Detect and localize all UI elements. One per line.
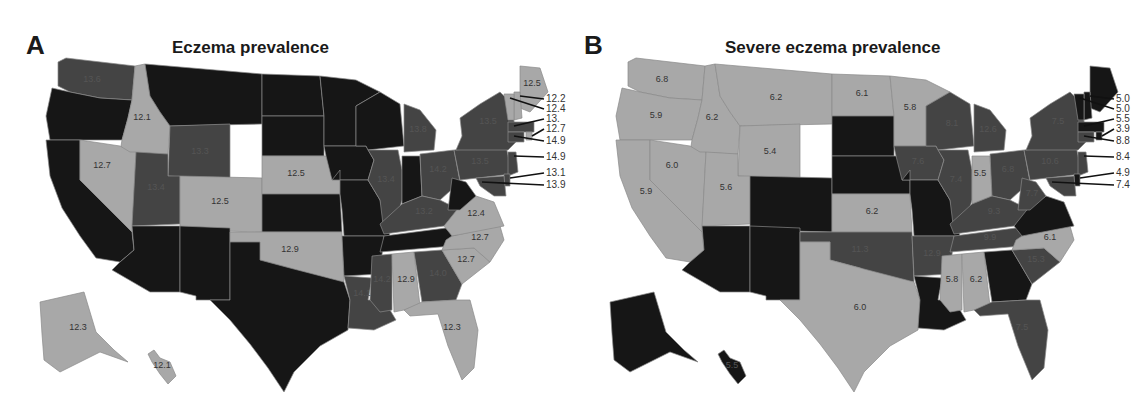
us-map-b: 6.85.95.96.26.06.25.45.66.16.211.36.05.8…	[570, 0, 1140, 403]
state-value-label-la: 14.1	[353, 288, 371, 298]
state-value-label-ks: 6.2	[866, 206, 879, 216]
state-value-label-tx: 6.0	[854, 302, 867, 312]
state-value-label-co: 12.5	[211, 196, 229, 206]
callout-value-md: 7.4	[1116, 179, 1130, 190]
state-value-label-hi: 12.1	[153, 360, 171, 370]
state-value-label-va: 12.4	[467, 208, 485, 218]
state-ak	[40, 292, 128, 372]
state-value-label-in: 5.5	[974, 168, 987, 178]
state-sd	[832, 116, 894, 156]
state-value-label-nd: 6.1	[856, 88, 869, 98]
state-value-label-fl: 12.3	[443, 322, 461, 332]
state-value-label-mn: 5.8	[904, 102, 917, 112]
state-value-label-ny: 7.5	[1052, 116, 1065, 126]
state-value-label-sc: 12.7	[457, 254, 475, 264]
state-fl	[974, 300, 1048, 380]
state-value-label-hi: 5.5	[726, 360, 739, 370]
state-value-label-ut: 13.4	[147, 182, 165, 192]
state-value-label-ok: 12.9	[281, 244, 299, 254]
state-ia	[324, 146, 374, 180]
state-value-label-oh: 6.8	[1002, 164, 1015, 174]
state-value-label-mi: 12.6	[979, 124, 997, 134]
us-map-a: 13.612.112.713.313.412.512.512.913.413.8…	[0, 0, 570, 403]
state-value-label-mt: 6.2	[770, 92, 783, 102]
state-value-label-il: 7.4	[950, 174, 963, 184]
state-value-label-or: 5.9	[650, 110, 663, 120]
state-value-label-ca: 5.9	[640, 186, 653, 196]
state-value-label-ar: 12.9	[923, 248, 941, 258]
state-value-label-mi: 13.8	[409, 124, 427, 134]
state-value-label-sc: 15.3	[1027, 254, 1045, 264]
state-sd	[262, 116, 324, 156]
state-in	[402, 156, 422, 204]
callout-value-ri: 3.9	[1116, 123, 1130, 134]
callout-leader-line	[514, 156, 544, 157]
state-value-label-ak: 12.3	[69, 322, 87, 332]
state-value-label-pa: 13.5	[471, 156, 489, 166]
state-value-label-tn: 9.9	[984, 232, 997, 242]
state-value-label-nv: 12.7	[93, 160, 111, 170]
state-value-label-ne: 12.5	[287, 168, 305, 178]
state-fl	[404, 300, 478, 380]
callout-leader-line	[510, 173, 544, 178]
state-value-label-wa: 6.8	[656, 74, 669, 84]
callout-value-ct: 8.8	[1116, 135, 1130, 146]
state-md	[476, 176, 506, 196]
callout-leader-line	[1080, 173, 1114, 178]
state-value-label-ok: 11.3	[852, 244, 869, 254]
state-value-label-oh: 14.2	[429, 164, 447, 174]
state-value-label-nc: 12.7	[471, 232, 489, 242]
state-value-label-nc: 6.1	[1044, 232, 1057, 242]
state-value-label-me: 12.5	[523, 78, 541, 88]
state-ma	[508, 122, 534, 132]
state-value-label-ut: 5.6	[720, 182, 733, 192]
state-md	[1046, 176, 1076, 196]
state-value-label-al: 12.9	[397, 274, 415, 284]
state-nd	[262, 74, 324, 116]
state-value-label-nv: 6.0	[666, 160, 679, 170]
state-value-label-fl: 7.5	[1016, 322, 1029, 332]
state-co	[750, 176, 832, 232]
state-value-label-wv: 7.7	[1026, 188, 1039, 198]
callout-value-md: 13.9	[546, 179, 566, 190]
state-value-label-ms: 5.8	[946, 274, 959, 284]
callout-value-nj: 8.4	[1116, 151, 1130, 162]
state-ks	[262, 194, 342, 232]
callout-value-ct: 14.9	[546, 135, 566, 146]
state-value-label-id: 6.2	[706, 112, 719, 122]
state-value-label-al: 6.2	[970, 274, 983, 284]
state-in	[972, 156, 992, 204]
state-value-label-ms: 14.2	[373, 274, 391, 284]
state-value-label-ky: 9.3	[988, 206, 1001, 216]
state-value-label-il: 13.4	[377, 174, 395, 184]
state-nm	[750, 226, 800, 300]
state-nm	[180, 226, 230, 300]
state-ma	[1078, 122, 1104, 132]
state-value-label-id: 12.1	[133, 112, 151, 122]
state-value-label-pa: 10.6	[1041, 156, 1059, 166]
panel-a-eczema-map: A Eczema prevalence 13.612.112.713.313.4…	[0, 0, 570, 403]
state-value-label-ia: 7.6	[912, 156, 925, 166]
state-value-label-wa: 13.6	[83, 74, 101, 84]
callout-value-nj: 14.9	[546, 151, 566, 162]
state-value-label-wy: 13.3	[191, 146, 209, 156]
state-value-label-ny: 13.5	[479, 116, 497, 126]
callout-value-ri: 12.7	[546, 123, 566, 134]
callout-leader-line	[1084, 156, 1114, 157]
state-value-label-wi: 8.1	[946, 118, 959, 128]
callout-value-de: 4.9	[1116, 167, 1130, 178]
state-ak	[610, 292, 698, 372]
state-value-label-ky: 13.2	[415, 206, 433, 216]
panel-b-severe-eczema-map: B Severe eczema prevalence 6.85.95.96.26…	[570, 0, 1140, 403]
callout-value-de: 13.1	[546, 167, 566, 178]
state-value-label-wy: 5.4	[764, 146, 777, 156]
state-value-label-ga: 14.0	[429, 268, 447, 278]
